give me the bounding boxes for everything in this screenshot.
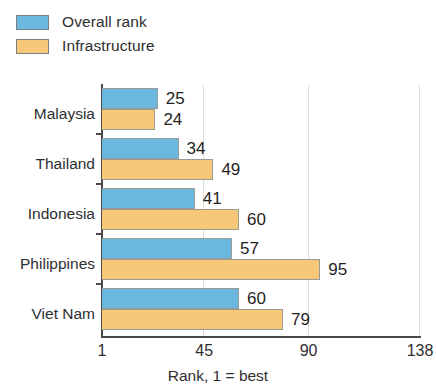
bar-infrastructure xyxy=(102,309,283,330)
category-label-malaysia: Malaysia xyxy=(0,105,95,123)
x-axis-tick-label: 90 xyxy=(300,342,318,360)
category-label-thailand: Thailand xyxy=(0,155,95,173)
bar-overall-rank xyxy=(102,88,158,109)
category-axis-labels: MalaysiaThailandIndonesiaPhilippinesViet… xyxy=(0,0,95,391)
bar-infrastructure xyxy=(102,209,239,230)
bar-value-label: 49 xyxy=(221,159,240,180)
category-label-philippines: Philippines xyxy=(0,255,95,273)
bar-value-label: 95 xyxy=(328,259,347,280)
bar-overall-rank xyxy=(102,188,195,209)
category-label-indonesia: Indonesia xyxy=(0,205,95,223)
x-axis-tick-label: 45 xyxy=(195,342,213,360)
bar-value-label: 25 xyxy=(166,88,185,109)
gridline xyxy=(308,85,309,337)
bar-overall-rank xyxy=(102,288,239,309)
x-axis-line xyxy=(101,336,421,338)
x-axis-tick-label: 138 xyxy=(407,342,434,360)
bar-infrastructure xyxy=(102,259,320,280)
bar-value-label: 60 xyxy=(247,209,266,230)
x-axis-tick-label: 1 xyxy=(98,342,107,360)
gridline xyxy=(419,85,420,337)
bar-infrastructure xyxy=(102,109,155,130)
bar-value-label: 57 xyxy=(240,238,259,259)
x-axis-caption: Rank, 1 = best xyxy=(0,367,436,385)
bar-overall-rank xyxy=(102,238,232,259)
bar-value-label: 34 xyxy=(187,138,206,159)
bar-value-label: 60 xyxy=(247,288,266,309)
bar-value-label: 24 xyxy=(163,109,182,130)
bar-chart: MalaysiaThailandIndonesiaPhilippinesViet… xyxy=(0,0,436,391)
bar-overall-rank xyxy=(102,138,179,159)
category-label-viet-nam: Viet Nam xyxy=(0,305,95,323)
bar-value-label: 41 xyxy=(203,188,222,209)
bar-infrastructure xyxy=(102,159,213,180)
bar-value-label: 79 xyxy=(291,309,310,330)
